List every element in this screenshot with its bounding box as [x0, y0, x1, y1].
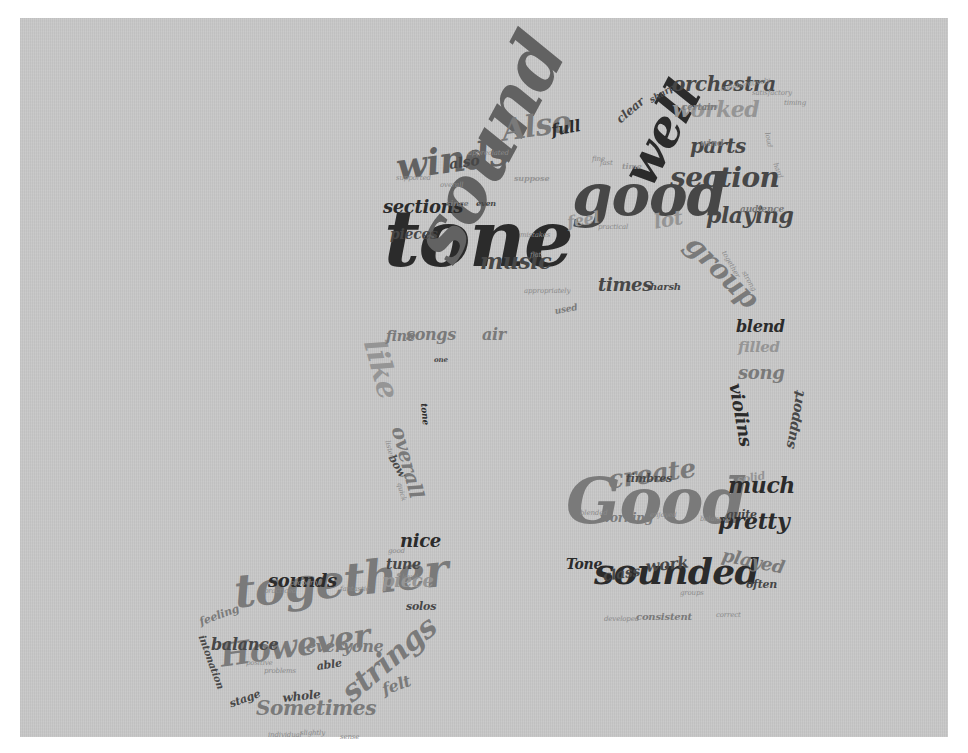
word-certain: certain — [682, 103, 717, 112]
word-time: time — [622, 162, 642, 170]
word-times: times — [598, 276, 652, 294]
word-section: section — [670, 164, 779, 192]
word-tone: Tone — [566, 557, 602, 571]
tiny-word: good — [388, 548, 405, 555]
word-fine: fine — [386, 329, 415, 343]
word-since: since — [446, 199, 469, 207]
word-suppose: suppose — [514, 174, 549, 182]
tiny-word: satisfactory — [752, 90, 792, 97]
word-used: used — [554, 303, 578, 316]
word-balance: balance — [211, 637, 278, 653]
tiny-word: individual — [268, 732, 302, 739]
word-lot: lot — [652, 207, 684, 232]
tiny-word: appropriately — [524, 288, 570, 295]
tiny-word: enjoyed — [650, 512, 677, 519]
word-full: full — [550, 118, 582, 139]
word-support: support — [782, 389, 806, 449]
tiny-word: timing — [784, 100, 806, 107]
tiny-word: problems — [264, 668, 296, 675]
word-wind: wind — [700, 139, 723, 148]
word-group: group — [680, 230, 764, 314]
word-nice: nice — [400, 532, 441, 550]
tiny-word: slightly — [300, 730, 325, 737]
word-work: work — [645, 555, 689, 575]
tiny-word: loud — [763, 132, 772, 148]
word-violins: violins — [726, 382, 755, 448]
tiny-word: developed — [604, 616, 639, 623]
word-often: often — [746, 579, 777, 590]
tiny-word: practiced — [264, 588, 296, 595]
word-blend: blend — [736, 319, 785, 335]
tiny-word: groups — [680, 590, 704, 597]
word-timbres: timbres — [626, 473, 672, 484]
word-one: one — [434, 356, 448, 363]
word-pieces: pieces — [390, 227, 438, 241]
word-everyone: everyone — [306, 639, 383, 655]
tiny-word: practical — [598, 224, 628, 231]
word-feeling: feeling — [198, 603, 241, 627]
tiny-word: appreciated — [468, 150, 509, 157]
word-like: like — [359, 336, 404, 402]
word-filled: filled — [738, 340, 780, 355]
word-cloud-music-note: tonesoundgoodGoodwelltogethersoundedwind… — [0, 0, 968, 753]
tiny-word: flat — [530, 252, 541, 259]
tiny-word: level — [402, 574, 418, 581]
tiny-word: balanced — [700, 516, 731, 523]
tiny-word: positive — [246, 660, 273, 667]
word-consistent: consistent — [636, 612, 692, 622]
tiny-word: fantastic — [340, 586, 370, 593]
tiny-word: supported — [396, 175, 431, 182]
tiny-word: overall — [440, 182, 463, 189]
tiny-word: correct — [716, 612, 741, 619]
tiny-word: properly — [290, 580, 319, 587]
word-air: air — [482, 327, 506, 343]
tiny-word: fast — [600, 160, 613, 167]
tiny-word: sense — [340, 734, 359, 741]
word-tone: tone — [419, 403, 430, 425]
word-able: able — [316, 658, 342, 672]
word-much: much — [728, 474, 795, 496]
word-audience: audience — [740, 205, 784, 214]
tiny-word: mistakes — [520, 232, 550, 239]
word-harsh: harsh — [650, 282, 681, 292]
tiny-word: blended — [580, 510, 608, 517]
word-sometimes: Sometimes — [256, 698, 376, 718]
word-solos: solos — [406, 601, 436, 612]
word-even: even — [476, 199, 496, 207]
word-song: song — [738, 364, 784, 382]
